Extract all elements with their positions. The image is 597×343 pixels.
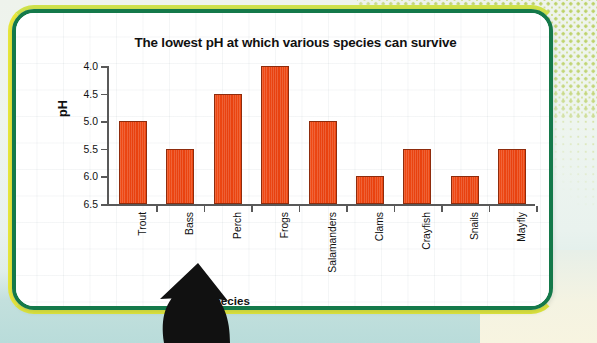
chart-title: The lowest pH at which various species c… bbox=[16, 35, 549, 50]
chart-card: The lowest pH at which various species c… bbox=[12, 9, 553, 310]
x-category-label: Snails bbox=[469, 212, 480, 240]
x-category-label: Mayfly bbox=[516, 212, 527, 242]
y-axis-title: pH bbox=[56, 100, 70, 117]
bar bbox=[498, 149, 526, 204]
up-arrow-annotation bbox=[150, 257, 246, 343]
x-category-label: Crayfish bbox=[421, 212, 432, 250]
x-tick-mark bbox=[536, 206, 538, 212]
y-tick-label: 6.0 bbox=[84, 171, 98, 182]
bar bbox=[403, 149, 431, 204]
bar bbox=[356, 176, 384, 204]
bar bbox=[309, 121, 337, 204]
y-tick-label: 5.5 bbox=[84, 143, 98, 154]
plot-area: 4.04.55.05.56.06.5 TroutBassPerchFrogsSa… bbox=[107, 66, 534, 205]
bar bbox=[166, 149, 194, 204]
x-category-label: Clams bbox=[374, 212, 385, 241]
x-category-label: Trout bbox=[137, 212, 148, 236]
y-tick-label: 4.5 bbox=[84, 88, 98, 99]
graph-paper-surface: The lowest pH at which various species c… bbox=[16, 13, 549, 306]
x-category-label: Perch bbox=[232, 212, 243, 239]
x-category-label: Frogs bbox=[279, 212, 290, 238]
bar bbox=[451, 176, 479, 204]
x-category-label: Bass bbox=[184, 212, 195, 235]
slide-canvas: The lowest pH at which various species c… bbox=[0, 0, 597, 343]
bar-series bbox=[107, 66, 534, 205]
bar bbox=[214, 94, 242, 204]
y-tick-label: 5.0 bbox=[84, 116, 98, 127]
bar bbox=[261, 66, 289, 204]
bar bbox=[119, 121, 147, 204]
y-tick-label: 6.5 bbox=[84, 199, 98, 210]
x-category-label: Salamanders bbox=[327, 212, 338, 273]
y-tick-label: 4.0 bbox=[84, 61, 98, 72]
